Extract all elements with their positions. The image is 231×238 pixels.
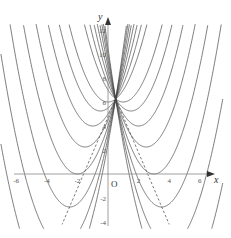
x-tick-label: -4 bbox=[44, 177, 50, 185]
y-tick-label: 4 bbox=[103, 123, 107, 131]
parabola-curves bbox=[1, 24, 223, 229]
y-tick-label: 10 bbox=[99, 51, 107, 59]
y-tick-label: -2 bbox=[100, 195, 106, 203]
parabola-curve bbox=[102, 24, 221, 207]
y-axis-arrow-icon bbox=[105, 17, 111, 25]
x-axis-label: x bbox=[213, 174, 219, 185]
y-tick-label: -4 bbox=[100, 219, 106, 227]
parabola-curve bbox=[36, 24, 134, 147]
y-tick-label: 12 bbox=[99, 27, 107, 35]
parabola-curve bbox=[103, 24, 222, 229]
vertex-dashed-lines bbox=[62, 99, 169, 224]
y-tick-label: 2 bbox=[103, 147, 107, 155]
x-tick-label: 2 bbox=[137, 177, 141, 185]
x-tick-label: -6 bbox=[13, 177, 19, 185]
parabola-curve bbox=[97, 24, 195, 147]
x-tick-label: 6 bbox=[198, 177, 202, 185]
parabola-family-chart: x y O -6-4-2246-4-224681012 bbox=[0, 0, 231, 238]
dashed-line bbox=[116, 99, 170, 224]
x-tick-label: -2 bbox=[74, 177, 80, 185]
x-tick-label: 4 bbox=[167, 177, 171, 185]
y-axis-label: y bbox=[97, 11, 103, 22]
y-tick-label: 8 bbox=[103, 75, 107, 83]
y-tick-label: 6 bbox=[103, 99, 107, 107]
parabola-curve bbox=[94, 25, 183, 126]
parabola-curve bbox=[48, 25, 137, 126]
origin-label: O bbox=[111, 179, 118, 189]
